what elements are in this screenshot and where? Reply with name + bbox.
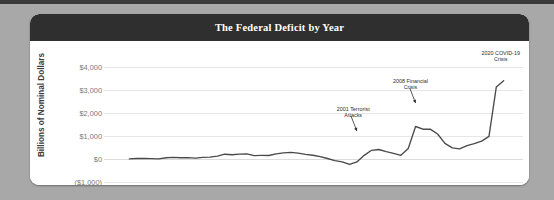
y-tick-label: $2,000: [56, 109, 102, 118]
y-tick-label: $1,000: [56, 132, 102, 141]
annotation-terror: 2001 TerroristAttacks: [337, 106, 370, 131]
y-tick-label: $3,000: [56, 86, 102, 95]
y-tick-label: $4,000: [56, 63, 102, 72]
annotation-label: 2008 Financial: [393, 78, 428, 84]
annotation-label: 2001 Terrorist: [337, 106, 370, 112]
y-tick-label: $0: [56, 155, 102, 164]
annotation-financial: 2008 FinancialCrisis: [393, 78, 428, 103]
screenshot-root: The Federal Deficit by Year Billions of …: [0, 0, 554, 200]
page-title: The Federal Deficit by Year: [215, 22, 344, 33]
annotation-covid: 2020 COVID-19Crisis: [482, 50, 520, 62]
annotation-label: 2020 COVID-19: [482, 50, 520, 56]
series-line-federal-deficit: [129, 81, 503, 165]
y-tick-label: ($1,000): [56, 178, 102, 186]
y-axis-title-text: Billions of Nominal Dollars: [37, 53, 46, 157]
annotation-label: Crisis: [494, 56, 508, 62]
y-axis-title: Billions of Nominal Dollars: [34, 49, 48, 161]
annotation-label: Attacks: [344, 112, 362, 118]
line-chart-svg: 2001 TerroristAttacks2008 FinancialCrisi…: [104, 41, 523, 185]
chart-title-bar: The Federal Deficit by Year: [30, 14, 529, 41]
y-axis-tick-labels: $4,000$3,000$2,000$1,000$0($1,000): [50, 41, 102, 185]
plot-area: Billions of Nominal Dollars $4,000$3,000…: [30, 41, 529, 185]
chart-card: The Federal Deficit by Year Billions of …: [30, 14, 529, 185]
